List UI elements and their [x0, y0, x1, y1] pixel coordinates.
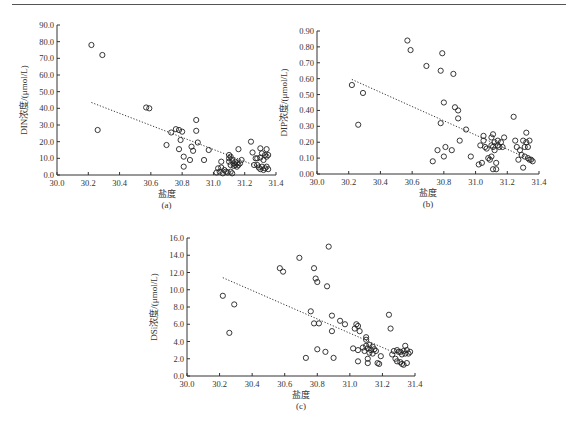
- data-point-circle: [331, 355, 336, 360]
- data-point-circle: [316, 321, 321, 326]
- chart-b-dip-vs-salinity: 0.000.100.200.300.400.500.600.700.800.90…: [278, 26, 547, 209]
- data-point-circle: [441, 100, 446, 105]
- data-point-circle: [100, 52, 105, 57]
- y-tick-label: 16.0: [169, 233, 184, 243]
- data-point-circle: [355, 359, 360, 364]
- data-point-circle: [303, 355, 308, 360]
- data-point-circle: [438, 68, 443, 73]
- data-point-circle: [388, 326, 393, 331]
- x-tick-label: 30.8: [175, 178, 190, 188]
- y-tick-label: 2.0: [173, 354, 184, 364]
- y-tick-label: 10.0: [39, 153, 54, 163]
- trend-line: [91, 103, 260, 168]
- x-tick-label: 31.0: [468, 177, 483, 187]
- trend-line: [352, 79, 520, 154]
- data-point-circle: [522, 154, 527, 159]
- data-point-circle: [232, 302, 237, 307]
- data-point-circle: [511, 114, 516, 119]
- data-point-circle: [494, 160, 499, 165]
- x-axis-title: 盐度: [419, 187, 437, 198]
- data-point-circle: [280, 269, 285, 274]
- data-point-circle: [329, 313, 334, 318]
- y-tick-label: 0.80: [299, 42, 314, 52]
- x-tick-label: 30.4: [112, 178, 128, 188]
- data-point-circle: [357, 329, 362, 334]
- x-tick-label: 30.2: [341, 177, 356, 187]
- subfigure-label: (c): [296, 401, 306, 411]
- data-point-circle: [443, 144, 448, 149]
- y-tick-label: 4.0: [173, 337, 184, 347]
- x-tick-label: 31.2: [375, 379, 390, 389]
- data-point-circle: [349, 82, 354, 87]
- data-point-circle: [324, 284, 329, 289]
- data-point-circle: [521, 138, 526, 143]
- data-point-circle: [408, 47, 413, 52]
- data-point-circle: [178, 137, 183, 142]
- data-point-circle: [514, 144, 519, 149]
- x-tick-label: 30.8: [310, 379, 325, 389]
- data-point-circle: [164, 142, 169, 147]
- data-point-circle: [95, 127, 100, 132]
- y-tick-label: 0.30: [299, 121, 314, 131]
- y-tick-label: 60.0: [39, 70, 54, 80]
- data-point-circle: [441, 154, 446, 159]
- data-point-circle: [323, 349, 328, 354]
- y-tick-label: 0.10: [299, 153, 314, 163]
- data-point-circle: [438, 121, 443, 126]
- y-tick-label: 90.0: [39, 20, 54, 30]
- data-point-circle: [492, 148, 497, 153]
- data-point-circle: [297, 255, 302, 260]
- x-tick-label: 30.0: [180, 379, 195, 389]
- y-tick-label: 0.70: [299, 58, 314, 68]
- y-tick-label: 70.0: [39, 53, 54, 63]
- data-point-circle: [463, 127, 468, 132]
- data-point-circle: [311, 321, 316, 326]
- data-point-circle: [489, 154, 494, 159]
- y-axis-title: DSi浓度/(μmol/L): [148, 273, 159, 340]
- data-point-circle: [525, 144, 530, 149]
- x-tick-label: 31.0: [206, 178, 221, 188]
- data-point-circle: [479, 160, 484, 165]
- x-tick-label: 30.0: [310, 177, 325, 187]
- data-point-circle: [258, 146, 263, 151]
- data-point-circle: [264, 147, 269, 152]
- data-point-circle: [457, 138, 462, 143]
- data-point-circle: [194, 117, 199, 122]
- data-point-circle: [326, 244, 331, 249]
- y-tick-label: 12.0: [169, 268, 184, 278]
- data-point-circle: [449, 148, 454, 153]
- x-tick-label: 30.4: [245, 379, 261, 389]
- x-tick-label: 31.2: [500, 177, 515, 187]
- data-point-circle: [502, 135, 507, 140]
- y-tick-label: 14.0: [169, 250, 184, 260]
- x-tick-label: 30.6: [405, 177, 420, 187]
- data-point-circle: [494, 167, 499, 172]
- data-point-circle: [377, 361, 382, 366]
- y-tick-label: 80.0: [39, 37, 54, 47]
- subfigure-label: (b): [423, 199, 434, 209]
- data-point-circle: [206, 147, 211, 152]
- data-point-circle: [435, 148, 440, 153]
- data-point-circle: [489, 135, 494, 140]
- data-point-circle: [456, 108, 461, 113]
- data-point-circle: [169, 130, 174, 135]
- data-point-circle: [181, 164, 186, 169]
- data-point-circle: [308, 309, 313, 314]
- data-point-circle: [490, 132, 495, 137]
- y-tick-label: 0.90: [299, 26, 314, 36]
- data-point-circle: [329, 329, 334, 334]
- x-tick-label: 30.6: [143, 178, 158, 188]
- data-point-circle: [315, 347, 320, 352]
- data-point-circle: [468, 154, 473, 159]
- data-point-circle: [180, 129, 185, 134]
- data-point-circle: [424, 63, 429, 68]
- chart-a-din-vs-salinity: 0.010.020.030.040.050.060.070.080.090.03…: [18, 20, 284, 210]
- data-point-circle: [147, 106, 152, 111]
- data-point-circle: [176, 127, 181, 132]
- y-axis-title: DIN浓度/(μmol/L): [18, 65, 29, 134]
- data-point-circle: [220, 293, 225, 298]
- data-point-circle: [521, 165, 526, 170]
- data-point-circle: [89, 42, 94, 47]
- y-tick-label: 0.50: [299, 90, 314, 100]
- data-point-circle: [194, 128, 199, 133]
